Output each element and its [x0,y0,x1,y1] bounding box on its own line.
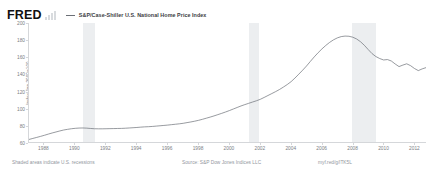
y-axis-tick-label: 60 [20,141,25,146]
shortlink-note[interactable]: myf.red/g/lTK5L [318,160,352,165]
plot-area [28,23,426,143]
x-axis-tick-mark [74,143,75,145]
x-axis-tick-mark [198,143,199,145]
y-axis-tick-label: 160 [17,55,25,60]
x-axis-tick-mark [229,143,230,145]
y-axis-tick-label: 180 [17,38,25,43]
y-axis-tick-label: 80 [20,123,25,128]
x-axis-tick-label: 2012 [409,146,420,151]
x-axis-tick-mark [105,143,106,145]
x-axis-tick-mark [291,143,292,145]
x-axis-tick-label: 2000 [224,146,235,151]
y-axis-tick-mark [26,126,28,127]
plot-frame: Index Jan 2000=100 608010012014016018020… [28,23,426,143]
x-axis-tick-label: 1988 [38,146,49,151]
fred-logo[interactable]: FRED [7,9,42,21]
y-axis-tick-label: 200 [17,21,25,26]
x-axis-tick-mark [167,143,168,145]
source-note: Source: S&P Dow Jones Indices LLC [182,160,261,165]
y-axis-tick-label: 100 [17,106,25,111]
x-axis-tick-mark [43,143,44,145]
legend-line-swatch [66,15,75,16]
x-axis-tick-label: 2002 [255,146,266,151]
x-axis-tick-label: 2006 [316,146,327,151]
y-axis-tick-mark [26,74,28,75]
chart-header: FRED S&P/Case-Shiller U.S. National Home… [0,6,433,24]
fred-bar-chart-mark-icon [45,11,56,20]
y-axis-tick-mark [26,57,28,58]
legend-series-label: S&P/Case-Shiller U.S. National Home Pric… [79,12,207,18]
x-axis-tick-mark [260,143,261,145]
y-axis-tick-label: 140 [17,72,25,77]
x-axis-tick-label: 2010 [378,146,389,151]
chart-footer: Shaded areas indicate U.S. recessions So… [0,160,433,170]
y-axis-tick-mark [26,143,28,144]
y-axis-tick-label: 120 [17,89,25,94]
series-line-chart [29,23,426,142]
x-axis-tick-mark [383,143,384,145]
x-axis-tick-label: 1998 [193,146,204,151]
recession-note: Shaded areas indicate U.S. recessions [12,160,95,165]
x-axis-tick-label: 2004 [285,146,296,151]
y-axis-tick-mark [26,23,28,24]
x-axis-tick-mark [322,143,323,145]
x-axis-tick-label: 2008 [347,146,358,151]
series-line-path [29,36,426,139]
x-axis-tick-mark [353,143,354,145]
x-axis-tick-label: 1994 [131,146,142,151]
chart-legend: S&P/Case-Shiller U.S. National Home Pric… [66,12,207,18]
y-axis-tick-mark [26,40,28,41]
x-axis-tick-mark [136,143,137,145]
x-axis-tick-label: 1992 [100,146,111,151]
fred-chart: FRED S&P/Case-Shiller U.S. National Home… [0,0,433,174]
y-axis-tick-mark [26,109,28,110]
x-axis-tick-mark [414,143,415,145]
y-axis-tick-mark [26,92,28,93]
x-axis-tick-label: 1990 [69,146,80,151]
x-axis-tick-label: 1996 [162,146,173,151]
